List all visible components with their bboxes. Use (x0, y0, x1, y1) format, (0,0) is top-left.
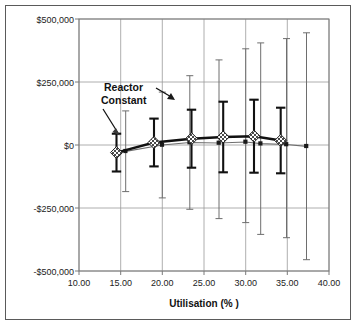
x-tick-label-10: 10.00 (68, 278, 91, 288)
x-tick-label-40: 40.00 (318, 278, 341, 288)
x-tick-label-25: 25.00 (193, 278, 216, 288)
y-tick-label-500000: $500,000 (36, 15, 74, 25)
x-axis-title: Utilisation (% ) (169, 298, 238, 309)
y-tick-label-neg250000: -$250,000 (33, 204, 74, 214)
y-axis-tick-marks (75, 19, 79, 271)
x-tick-label-15: 15.00 (109, 278, 132, 288)
y-tick-label-neg500000: -$500,000 (33, 267, 74, 277)
x-tick-label-35: 35.00 (276, 278, 299, 288)
x-tick-label-20: 20.00 (151, 278, 174, 288)
x-tick-label-30: 30.00 (234, 278, 257, 288)
x-axis-tick-labels: 10.00 15.00 20.00 25.00 30.00 35.00 40.0… (68, 278, 341, 288)
y-tick-label-250000: $250,000 (36, 78, 74, 88)
y-tick-label-0: $0 (64, 141, 74, 151)
chart-frame: Reactor Constant $500,000 $250,000 $0 -$… (5, 5, 351, 320)
annotation-line-1: Reactor (104, 81, 143, 93)
y-axis-tick-labels: $500,000 $250,000 $0 -$250,000 -$500,000 (33, 15, 74, 277)
x-axis-tick-marks (79, 271, 329, 275)
annotation-line-2: Constant (101, 94, 147, 106)
chart-plot: Reactor Constant $500,000 $250,000 $0 -$… (6, 6, 350, 319)
